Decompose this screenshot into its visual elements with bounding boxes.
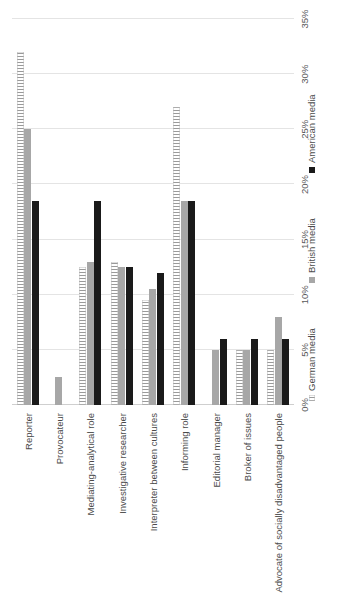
legend-swatch-icon xyxy=(309,395,315,401)
bar xyxy=(275,317,282,405)
chart-legend: German mediaBritish mediaAmerican media xyxy=(306,11,328,401)
bar xyxy=(267,350,274,405)
bar xyxy=(220,339,227,405)
gridline-20% xyxy=(12,183,294,184)
bar xyxy=(282,339,289,405)
bar xyxy=(188,201,195,405)
gridline-25% xyxy=(12,128,294,129)
category-label: Provocateur xyxy=(54,413,65,601)
bar xyxy=(17,52,24,405)
gridline-30% xyxy=(12,73,294,74)
gridline-35% xyxy=(12,18,294,19)
legend-swatch-icon xyxy=(309,277,315,283)
bar xyxy=(142,300,149,405)
category-label: Advocate of socially disadvantaged peopl… xyxy=(273,413,284,601)
bar xyxy=(118,267,125,405)
bar xyxy=(24,129,31,405)
category-label: Interpreter between cultures xyxy=(148,413,159,601)
bar xyxy=(236,350,243,405)
category-label: Mediating-analytical role xyxy=(85,413,96,601)
bar xyxy=(79,267,86,405)
legend-item[interactable]: German media xyxy=(306,328,317,401)
category-label: Informing role xyxy=(179,413,190,601)
bar xyxy=(55,377,62,405)
bar xyxy=(32,201,39,405)
gridline-15% xyxy=(12,239,294,240)
bar xyxy=(212,350,219,405)
legend-label: American media xyxy=(306,94,317,163)
legend-swatch-icon xyxy=(309,167,315,173)
plot-wrapper: 0%5%10%15%20%25%30%35% ReporterProvocate… xyxy=(0,0,337,601)
category-label: Broker of issues xyxy=(242,413,253,601)
chart-figure: 0%5%10%15%20%25%30%35% ReporterProvocate… xyxy=(0,0,337,601)
bar xyxy=(173,107,180,405)
bar xyxy=(87,262,94,405)
legend-label: British media xyxy=(306,218,317,273)
bar xyxy=(149,289,156,405)
bar xyxy=(126,267,133,405)
legend-label: German media xyxy=(306,328,317,391)
bar xyxy=(157,273,164,405)
category-label: Editorial manager xyxy=(210,413,221,601)
bar xyxy=(111,262,118,405)
bar xyxy=(94,201,101,405)
bar xyxy=(251,339,258,405)
category-label: Investigative researcher xyxy=(116,413,127,601)
plot-area xyxy=(12,19,294,405)
bar xyxy=(243,350,250,405)
category-label: Reporter xyxy=(22,413,33,601)
bar xyxy=(181,201,188,405)
legend-item[interactable]: British media xyxy=(306,218,317,283)
legend-item[interactable]: American media xyxy=(306,94,317,173)
